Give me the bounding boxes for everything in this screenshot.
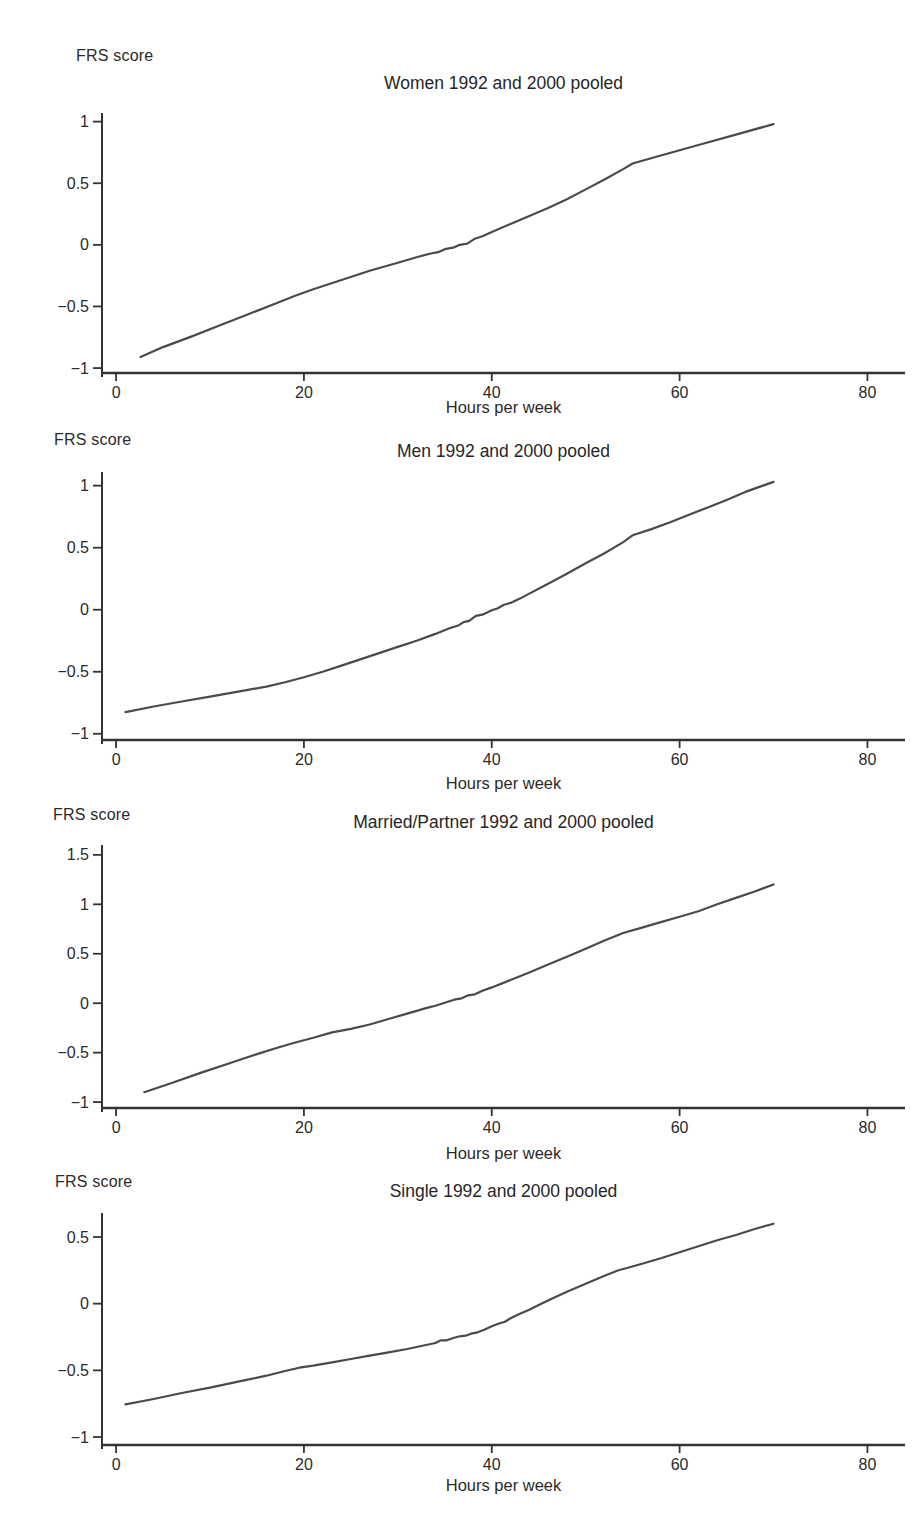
- x-tick-label: 0: [112, 1456, 121, 1473]
- frs-curve: [141, 124, 774, 357]
- plot-area-married-partner: −1−0.500.511.5020406080: [0, 790, 924, 1160]
- y-tick-label: 0: [80, 236, 89, 253]
- x-tick-label: 40: [483, 1456, 501, 1473]
- y-tick-label: −0.5: [57, 1044, 89, 1061]
- figure-panel-frs-charts: −1−0.500.51020406080 FRS score Women 199…: [0, 0, 924, 1528]
- y-axis-title: FRS score: [76, 47, 153, 65]
- plot-area-men: −1−0.500.51020406080: [0, 420, 924, 790]
- y-tick-label: 0.5: [67, 175, 89, 192]
- chart-title: Women 1992 and 2000 pooled: [102, 73, 905, 94]
- y-tick-label: 1.5: [67, 846, 89, 863]
- chart-title: Married/Partner 1992 and 2000 pooled: [102, 812, 905, 833]
- chart-men: −1−0.500.51020406080 FRS score Men 1992 …: [0, 420, 924, 790]
- x-tick-label: 40: [483, 751, 501, 768]
- x-tick-label: 60: [671, 1456, 689, 1473]
- frs-curve: [126, 482, 774, 712]
- y-tick-label: 0.5: [67, 539, 89, 556]
- chart-single: −1−0.500.5020406080 FRS score Single 199…: [0, 1160, 924, 1528]
- y-tick-label: −1: [71, 360, 89, 377]
- y-tick-label: −0.5: [57, 298, 89, 315]
- y-tick-label: 0: [80, 601, 89, 618]
- chart-women: −1−0.500.51020406080 FRS score Women 199…: [0, 0, 924, 420]
- x-axis-title: Hours per week: [102, 1476, 905, 1495]
- y-tick-label: −1: [71, 1094, 89, 1111]
- x-tick-label: 60: [671, 751, 689, 768]
- y-tick-label: −1: [71, 725, 89, 742]
- x-tick-label: 20: [295, 1119, 313, 1136]
- frs-curve: [144, 885, 773, 1093]
- x-tick-label: 20: [295, 751, 313, 768]
- y-tick-label: 0: [80, 995, 89, 1012]
- x-tick-label: 0: [112, 751, 121, 768]
- plot-area-single: −1−0.500.5020406080: [0, 1160, 924, 1528]
- y-tick-label: 0.5: [67, 1229, 89, 1246]
- chart-title: Men 1992 and 2000 pooled: [102, 441, 905, 462]
- y-tick-label: 0: [80, 1295, 89, 1312]
- chart-title: Single 1992 and 2000 pooled: [102, 1181, 905, 1202]
- x-tick-label: 80: [859, 751, 877, 768]
- y-tick-label: 0.5: [67, 945, 89, 962]
- x-tick-label: 0: [112, 1119, 121, 1136]
- y-tick-label: −0.5: [57, 1362, 89, 1379]
- y-tick-label: −1: [71, 1429, 89, 1446]
- x-tick-label: 60: [671, 1119, 689, 1136]
- x-tick-label: 80: [859, 1456, 877, 1473]
- x-tick-label: 40: [483, 1119, 501, 1136]
- chart-married-partner: −1−0.500.511.5020406080 FRS score Marrie…: [0, 790, 924, 1160]
- x-tick-label: 80: [859, 1119, 877, 1136]
- y-tick-label: −0.5: [57, 663, 89, 680]
- y-tick-label: 1: [80, 113, 89, 130]
- x-axis-title: Hours per week: [102, 398, 905, 417]
- frs-curve: [126, 1224, 774, 1405]
- y-tick-label: 1: [80, 896, 89, 913]
- y-tick-label: 1: [80, 477, 89, 494]
- x-tick-label: 20: [295, 1456, 313, 1473]
